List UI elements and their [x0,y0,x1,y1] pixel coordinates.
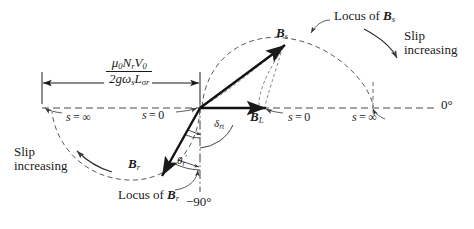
annotation-locus-of-br: Locus of Br [118,188,179,203]
slip-mark-s-zero-right: s = 0 [288,111,310,124]
angle-label-delta-rt: δrt [214,118,224,132]
angle-arc-delta-rt-inner [186,135,200,138]
angle-label-theta-r-prime: θr′ [177,155,187,169]
slip-text-line2: increasing [404,43,457,57]
vector-label-bs: Bs [276,26,288,41]
slip-text-line2: increasing [14,159,67,173]
axis-label-zero-degrees: 0° [441,98,453,112]
vector-label-br: Br [128,157,140,172]
dimension-formula: μ0NrV0 2gωsLσr [106,56,152,88]
annotation-locus-of-bs: Locus of Bs [334,9,395,24]
vector-label-bl: BL [250,110,263,125]
slip-text-line1: Slip [404,29,457,43]
axis-label-minus-ninety-degrees: −90° [186,195,212,209]
chord-bs-tip-to-bl-2 [265,47,283,106]
vector-bs [200,45,285,108]
leader-s-zero-right [266,109,283,113]
annotation-slip-increasing-left: Slip increasing [14,145,67,172]
slip-text-line1: Slip [14,145,67,159]
leader-locus-bs [311,20,330,33]
slip-mark-s-infinity-left: s = ∞ [66,111,91,124]
slip-mark-s-infinity-right: s = ∞ [352,111,377,124]
figure-canvas: μ0NrV0 2gωsLσr Bs BL Br δrt θr′ Locus of… [0,0,474,229]
annotation-slip-increasing-right: Slip increasing [404,29,457,56]
arrow-slip-increasing-right [364,29,397,58]
slip-mark-s-zero-center: s = 0 [142,109,164,122]
arrow-slip-increasing-left [77,151,112,172]
leader-s-zero-center [176,108,197,112]
leader-s-infinity-left [45,108,62,113]
angle-pointer-delta [188,130,201,135]
leader-locus-br [175,170,198,190]
locus-bs-dashed-arc [202,37,373,107]
